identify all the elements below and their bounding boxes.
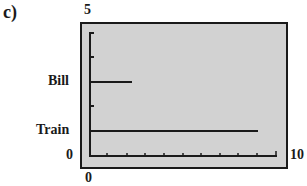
x-zero-label: 0 xyxy=(85,170,92,186)
y-max-label: 5 xyxy=(84,2,91,18)
y-zero-label: 0 xyxy=(66,147,73,163)
x-max-label: 10 xyxy=(290,147,304,163)
plot-area xyxy=(0,0,307,186)
bill-label: Bill xyxy=(48,73,69,89)
train-label: Train xyxy=(36,122,69,138)
